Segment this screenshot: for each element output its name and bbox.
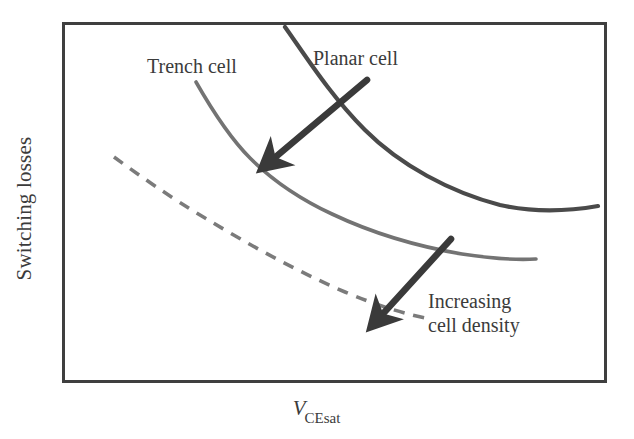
annotation-increasing-line-1: Increasing [428,290,520,314]
annotation-increasing-line-2: cell density [428,314,520,338]
annotation-planar-cell: Planar cell [313,47,398,71]
plot-frame [62,22,607,383]
annotation-increasing-cell-density: Increasing cell density [428,290,520,337]
y-axis-label: Switching losses [12,109,37,309]
x-axis-label: VCEsat [0,396,634,424]
annotation-trench-cell: Trench cell [147,55,237,79]
figure-container: Trench cell Planar cell Increasing cell … [0,0,634,439]
x-axis-label-subscript: CEsat [304,410,340,426]
